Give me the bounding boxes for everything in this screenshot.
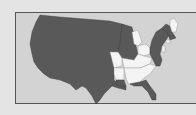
state-ohio <box>138 44 150 56</box>
us-map <box>0 0 196 115</box>
state-arkansas <box>114 68 124 80</box>
region-east-coast <box>150 28 170 66</box>
state-maine <box>170 18 178 32</box>
state-connecticut <box>166 40 170 43</box>
state-new-jersey <box>162 46 165 52</box>
